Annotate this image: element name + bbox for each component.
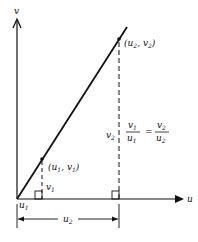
dim-arrow-right-icon bbox=[112, 217, 118, 222]
u-axis-arrow-icon bbox=[175, 195, 184, 203]
eq-equals: = bbox=[145, 127, 153, 137]
u2-label: u2 bbox=[63, 214, 73, 225]
u1-label: u1 bbox=[19, 200, 29, 211]
eq-lhs-numerator: v1 bbox=[128, 120, 137, 131]
proportionality-diagram: v u (u1, v1) (u2, v2) v1 v2 v1 u1 = v2 bbox=[0, 0, 198, 242]
proportional-line bbox=[17, 27, 127, 199]
v1-height-label: v1 bbox=[46, 182, 55, 193]
point-1-label: (u1, v1) bbox=[48, 162, 80, 173]
v-axis bbox=[13, 19, 21, 199]
eq-lhs-denominator: u1 bbox=[127, 133, 137, 144]
dim-arrow-left-icon bbox=[18, 217, 24, 222]
right-angle-2 bbox=[112, 191, 119, 199]
right-angle-1 bbox=[35, 191, 42, 199]
ratio-equation: v1 u1 = v2 u2 bbox=[126, 120, 169, 144]
v2-height-label: v2 bbox=[106, 130, 115, 141]
u-axis-label: u bbox=[187, 194, 193, 204]
point-1-marker bbox=[40, 157, 44, 161]
eq-rhs-denominator: u2 bbox=[156, 133, 166, 144]
v-axis-label: v bbox=[14, 6, 19, 16]
eq-rhs-numerator: v2 bbox=[157, 120, 166, 131]
point-2-label: (u2, v2) bbox=[124, 38, 156, 49]
point-2-marker bbox=[117, 37, 121, 41]
